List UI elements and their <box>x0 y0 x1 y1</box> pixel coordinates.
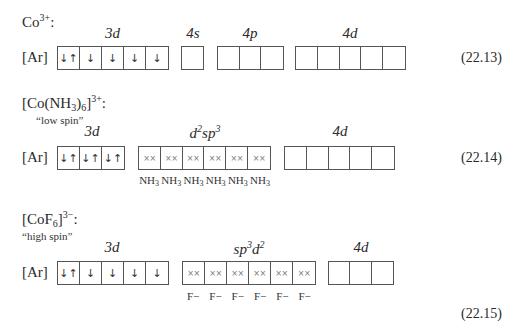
orbital-label-sp3d2: sp3d2 <box>224 239 274 258</box>
species-title-hexafluoro: [CoF6]3−: <box>22 209 78 229</box>
orbital-boxes-4d <box>284 146 395 170</box>
ligand-electron-pair: ×× <box>249 262 271 284</box>
orbital-box: ↓↑ <box>58 262 80 284</box>
orbital-boxes-3d: ↓↑ ↓ ↓ ↓ ↓ <box>57 46 169 70</box>
orbital-box <box>240 47 262 69</box>
orbital-boxes-4d <box>328 261 394 285</box>
orbital-box <box>350 262 371 284</box>
orbital-box <box>372 147 394 169</box>
ligand-label: NH3 <box>205 174 227 188</box>
ligand-electron-pair: ×× <box>293 262 315 284</box>
ligand-electron-pair: ×× <box>204 147 226 169</box>
ligand-label: F− <box>182 290 204 302</box>
argon-core: [Ar] <box>22 264 48 281</box>
orbital-box: ↓↑ <box>58 147 80 169</box>
orbital-box <box>329 262 350 284</box>
orbital-label-4s: 4s <box>181 25 205 42</box>
orbital-boxes-4p <box>217 46 284 70</box>
ligand-electron-pair: ×× <box>161 147 183 169</box>
orbital-box <box>296 47 318 69</box>
ligand-label: F− <box>271 290 293 302</box>
orbital-box: ↓↑ <box>80 147 102 169</box>
ligand-label: NH3 <box>249 174 271 188</box>
orbital-label-4p: 4p <box>238 25 262 42</box>
ligand-label: NH3 <box>138 174 160 188</box>
species-title-hexaammine: [Co(NH3)6]3+: <box>22 93 106 113</box>
ligand-label: NH3 <box>182 174 204 188</box>
orbital-label-4d: 4d <box>328 123 352 140</box>
orbital-box <box>340 47 362 69</box>
spin-note: “high spin” <box>22 230 72 242</box>
ligand-label: F− <box>249 290 271 302</box>
orbital-box: ↓↑ <box>102 147 124 169</box>
orbital-box <box>361 47 383 69</box>
orbital-boxes-d2sp3: ×× ×× ×× ×× ×× ×× <box>138 146 271 170</box>
orbital-label-4d: 4d <box>338 25 362 42</box>
equation-number: (22.14) <box>461 150 502 166</box>
equation-number: (22.15) <box>461 306 502 322</box>
ligand-electron-pair: ×× <box>205 262 227 284</box>
spin-note: “low spin” <box>36 114 83 126</box>
orbital-box <box>329 147 351 169</box>
orbital-boxes-4s <box>181 46 204 70</box>
ligand-labels-nh3: NH3 NH3 NH3 NH3 NH3 NH3 <box>138 174 271 188</box>
ligand-label: F− <box>227 290 249 302</box>
orbital-box: ↓ <box>124 262 146 284</box>
orbital-label-d2sp3: d2sp3 <box>180 123 230 142</box>
orbital-box <box>372 262 393 284</box>
ligand-label: F− <box>204 290 226 302</box>
ligand-electron-pair: ×× <box>139 147 161 169</box>
orbital-boxes-sp3d2: ×× ×× ×× ×× ×× ×× <box>182 261 316 285</box>
ligand-electron-pair: ×× <box>248 147 270 169</box>
species-title-co3plus: Co3+: <box>22 12 54 31</box>
orbital-boxes-4d <box>295 46 406 70</box>
orbital-box <box>350 147 372 169</box>
orbital-box: ↓↑ <box>58 47 80 69</box>
orbital-box: ↓ <box>102 262 124 284</box>
orbital-box <box>285 147 307 169</box>
ligand-label: F− <box>293 290 315 302</box>
orbital-box: ↓ <box>146 262 168 284</box>
orbital-box <box>218 47 240 69</box>
ligand-labels-fluoride: F− F− F− F− F− F− <box>182 290 316 302</box>
ligand-electron-pair: ×× <box>226 147 248 169</box>
orbital-box: ↓ <box>124 47 146 69</box>
ligand-electron-pair: ×× <box>183 262 205 284</box>
argon-core: [Ar] <box>22 149 48 166</box>
orbital-box: ↓ <box>80 262 102 284</box>
ligand-electron-pair: ×× <box>271 262 293 284</box>
orbital-box: ↓ <box>102 47 124 69</box>
orbital-boxes-3d: ↓↑ ↓↑ ↓↑ <box>57 146 125 170</box>
argon-core: [Ar] <box>22 49 48 66</box>
orbital-box <box>261 47 283 69</box>
orbital-label-3d: 3d <box>80 123 104 140</box>
orbital-label-3d: 3d <box>100 25 125 42</box>
orbital-box <box>307 147 329 169</box>
orbital-label-4d: 4d <box>349 239 373 256</box>
orbital-box: ↓ <box>146 47 168 69</box>
orbital-box <box>318 47 340 69</box>
equation-number: (22.13) <box>461 50 502 66</box>
ligand-electron-pair: ×× <box>227 262 249 284</box>
orbital-box <box>383 47 405 69</box>
orbital-boxes-3d: ↓↑ ↓ ↓ ↓ ↓ <box>57 261 169 285</box>
ligand-label: NH3 <box>160 174 182 188</box>
orbital-box <box>182 47 203 69</box>
orbital-label-3d: 3d <box>100 239 124 256</box>
ligand-label: NH3 <box>227 174 249 188</box>
orbital-box: ↓ <box>80 47 102 69</box>
ligand-electron-pair: ×× <box>183 147 205 169</box>
